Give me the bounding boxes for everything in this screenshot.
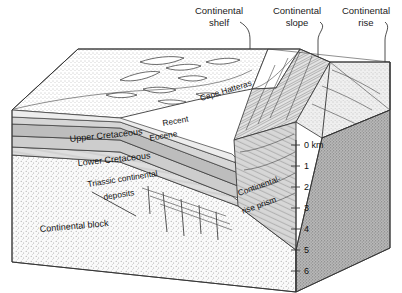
depth-tick-0-label: 0 km <box>304 140 324 150</box>
callout-slope-line1: Continental <box>273 5 321 16</box>
depth-tick-4-label: 4 <box>304 224 309 234</box>
callout-shelf-line2: shelf <box>209 17 229 28</box>
block-diagram-figure: Continental shelf Continental slope Cont… <box>0 0 402 293</box>
callout-shelf-line1: Continental <box>195 5 243 16</box>
depth-tick-3-label: 3 <box>304 203 309 213</box>
depth-tick-5-label: 5 <box>304 245 309 255</box>
callout-slope-line2: slope <box>286 17 309 28</box>
right-face-ocean <box>296 110 390 292</box>
diagram-canvas: Continental shelf Continental slope Cont… <box>0 0 402 293</box>
depth-tick-1-label: 1 <box>304 161 309 171</box>
depth-tick-6-label: 6 <box>304 266 309 276</box>
depth-tick-2-label: 2 <box>304 182 309 192</box>
block-solid: Cape Hatteras <box>12 49 390 292</box>
callout-rise-line2: rise <box>358 17 373 28</box>
callout-rise-line1: Continental <box>342 5 390 16</box>
label-recent: Recent <box>162 113 190 128</box>
leader-line-slope <box>318 22 323 62</box>
